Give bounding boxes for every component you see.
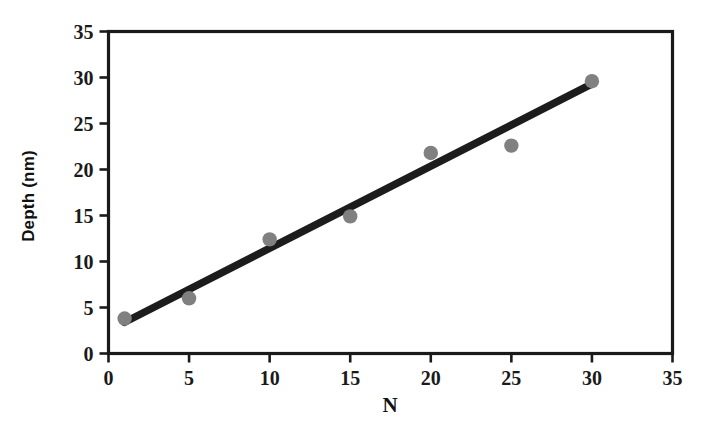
data-point-n30 [585,74,599,88]
y-tick-label-25: 25 [74,113,94,135]
x-tick-label-15: 15 [340,367,360,389]
x-tick-label-0: 0 [104,367,114,389]
x-tick-label-30: 30 [582,367,602,389]
y-tick-label-10: 10 [74,251,94,273]
x-tick-label-20: 20 [421,367,441,389]
x-tick-label-5: 5 [184,367,194,389]
scatter-plot-canvas: 05101520253035 05101520253035 N Depth (n… [0,0,703,429]
data-point-n10 [262,232,276,246]
data-point-n20 [424,146,438,160]
y-tick-label-35: 35 [74,21,94,43]
data-point-n15 [343,209,357,223]
y-tick-label-5: 5 [84,297,94,319]
y-tick-label-0: 0 [84,343,94,365]
y-axis-title: Depth (nm) [19,150,38,242]
x-tick-label-10: 10 [260,367,280,389]
data-point-n25 [504,138,518,152]
y-tick-label-30: 30 [74,67,94,89]
data-point-n1 [117,311,131,325]
y-tick-label-20: 20 [74,159,94,181]
chart-figure: 05101520253035 05101520253035 N Depth (n… [0,0,703,429]
x-tick-label-25: 25 [501,367,521,389]
data-point-n5 [182,291,196,305]
x-tick-label-35: 35 [663,367,683,389]
x-axis-title: N [382,393,397,417]
y-tick-label-15: 15 [74,205,94,227]
